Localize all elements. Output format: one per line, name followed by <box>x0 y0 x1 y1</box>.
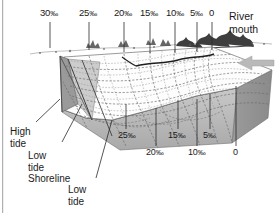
permil-symbol: ‰ <box>150 9 158 18</box>
salinity-value: 25 <box>79 7 89 18</box>
salinity-value: 10 <box>188 147 198 157</box>
low-tide-shoreline-line-2: tide <box>28 162 70 174</box>
top-salinity-label-25: 25‰ <box>79 8 97 18</box>
label-low-tide-2: Low tide <box>68 184 86 207</box>
permil-symbol: ‰ <box>50 9 58 18</box>
low-tide-2-line-1: Low <box>68 184 86 196</box>
bottom-salinity-label-25: 25‰ <box>118 131 135 140</box>
bottom-salinity-label-10: 10‰ <box>188 148 205 157</box>
salinity-value: 25 <box>118 130 128 140</box>
salinity-value: 30 <box>40 7 50 18</box>
permil-symbol: ‰ <box>178 131 186 140</box>
label-low-tide-shoreline: Low tide Shoreline <box>28 150 70 185</box>
bottom-salinity-label-5: 5‰ <box>203 131 216 140</box>
high-tide-line-1: High <box>10 126 31 138</box>
high-tide-line-2: tide <box>10 138 31 150</box>
salinity-value: 0 <box>209 7 214 18</box>
bottom-salinity-label-15: 15‰ <box>168 131 185 140</box>
top-salinity-label-30: 30‰ <box>40 8 58 18</box>
low-tide-shoreline-line-3: Shoreline <box>28 173 70 185</box>
river-mouth-line-2: mouth <box>229 23 258 36</box>
top-salinity-label-0: 0 <box>209 8 214 18</box>
salinity-value: 15 <box>140 7 150 18</box>
top-salinity-label-5: 5‰ <box>190 8 203 18</box>
permil-symbol: ‰ <box>124 9 132 18</box>
bottom-salinity-label-20: 20‰ <box>146 148 163 157</box>
label-river-mouth: River mouth <box>229 10 258 36</box>
permil-symbol: ‰ <box>89 9 97 18</box>
top-salinity-label-10: 10‰ <box>166 8 184 18</box>
salinity-value: 10 <box>166 7 176 18</box>
estuary-salinity-diagram: 30‰25‰20‰15‰10‰5‰0 25‰20‰15‰10‰5‰0 River… <box>0 0 278 213</box>
top-salinity-label-20: 20‰ <box>114 8 132 18</box>
permil-symbol: ‰ <box>128 131 136 140</box>
salinity-value: 0 <box>233 147 238 157</box>
permil-symbol: ‰ <box>195 9 203 18</box>
low-tide-shoreline-line-1: Low <box>28 150 70 162</box>
low-tide-2-line-2: tide <box>68 196 86 208</box>
permil-symbol: ‰ <box>208 131 216 140</box>
river-mouth-line-1: River <box>229 10 258 23</box>
bottom-salinity-label-0: 0 <box>233 148 238 157</box>
permil-symbol: ‰ <box>198 148 206 157</box>
salinity-value: 20 <box>146 147 156 157</box>
page-edge-rule <box>2 0 3 213</box>
permil-symbol: ‰ <box>176 9 184 18</box>
permil-symbol: ‰ <box>156 148 164 157</box>
salinity-value: 20 <box>114 7 124 18</box>
top-salinity-label-15: 15‰ <box>140 8 158 18</box>
salinity-value: 15 <box>168 130 178 140</box>
label-high-tide: High tide <box>10 126 31 149</box>
